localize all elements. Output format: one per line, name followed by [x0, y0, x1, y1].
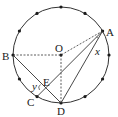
- label-d: D: [57, 105, 65, 117]
- label-e: E: [43, 76, 50, 88]
- label-angle-y: y: [31, 80, 37, 92]
- angle-x-arc: [97, 37, 99, 38]
- label-b: B: [2, 50, 9, 62]
- circle-diagram: O A B C D E x y: [0, 0, 118, 117]
- chord-ad: [61, 31, 103, 103]
- label-a: A: [106, 26, 114, 38]
- label-o: O: [55, 42, 63, 54]
- label-c: C: [27, 96, 34, 108]
- label-angle-x: x: [94, 45, 100, 57]
- angle-y-arc: [39, 85, 41, 91]
